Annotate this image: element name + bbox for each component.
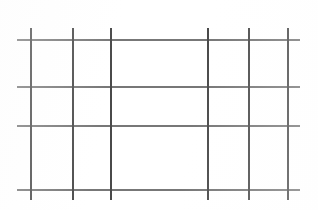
grid-horizontal-line: [17, 125, 300, 127]
grid-horizontal-line: [17, 39, 300, 41]
grid-lines-layer: [0, 0, 318, 210]
grid-vertical-line: [287, 28, 289, 200]
grid-vertical-line: [207, 28, 209, 200]
grid-vertical-line: [72, 28, 74, 200]
grid-vertical-line: [110, 28, 112, 200]
grid-horizontal-line: [17, 189, 300, 191]
grid-image-canvas: [0, 0, 318, 210]
grid-vertical-line: [30, 28, 32, 200]
grid-horizontal-line: [17, 86, 300, 88]
grid-vertical-line: [248, 28, 250, 200]
